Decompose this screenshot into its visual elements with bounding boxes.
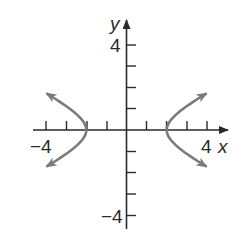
y-min-label: −4 — [101, 206, 123, 227]
x-max-label: 4 — [201, 136, 212, 157]
y-axis-label: y — [108, 13, 121, 34]
hyperbola-plot: y 4 −4 −4 4 x — [0, 0, 243, 235]
y-max-label: 4 — [110, 35, 121, 56]
x-min-label: −4 — [30, 136, 52, 157]
x-axis-label: x — [217, 136, 229, 157]
